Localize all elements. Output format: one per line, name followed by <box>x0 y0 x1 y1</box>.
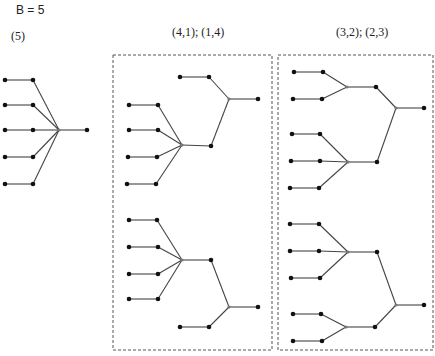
tree-edge <box>157 220 182 260</box>
tree-junction <box>346 250 349 253</box>
tree-edge <box>33 105 59 130</box>
tree-edge <box>158 260 182 299</box>
tree-edge <box>209 77 229 99</box>
tree-node <box>290 132 295 137</box>
tree-node <box>288 186 293 191</box>
tree-3-2 <box>288 70 427 191</box>
tree-4-1 <box>125 75 261 187</box>
tree-edge <box>322 327 346 341</box>
tree-node <box>291 312 296 317</box>
tree-node <box>31 128 36 133</box>
tree-node <box>127 297 132 302</box>
tree-node <box>31 78 36 83</box>
tree-node <box>3 78 8 83</box>
tree-node <box>3 128 8 133</box>
tree-node <box>178 325 183 330</box>
tree-edge <box>319 162 348 188</box>
tree-node <box>156 103 161 108</box>
tree-node <box>156 128 161 133</box>
tree-junction <box>57 128 60 131</box>
tree-edge <box>319 224 348 252</box>
tree-node <box>3 103 8 108</box>
tree-edge <box>33 130 59 184</box>
tree-node <box>156 245 161 250</box>
tree-junction <box>346 160 349 163</box>
tree-node <box>127 218 132 223</box>
tree-edge <box>320 252 348 278</box>
tree-node <box>321 70 326 75</box>
tree-edge <box>321 314 346 327</box>
tree-edge <box>319 251 348 252</box>
tree-node <box>320 339 325 344</box>
tree-node <box>319 312 324 317</box>
tree-edge <box>320 161 348 162</box>
tree-edge <box>375 305 396 327</box>
tree-node <box>256 305 261 310</box>
tree-edge <box>377 108 396 162</box>
tree-edge <box>211 260 229 307</box>
tree-junction <box>344 325 347 328</box>
tree-junction <box>345 85 348 88</box>
tree-node <box>207 325 212 330</box>
tree-node <box>256 97 261 102</box>
tree-node <box>127 272 132 277</box>
tree-node <box>3 155 8 160</box>
tree-junction <box>394 303 397 306</box>
tree-node <box>156 272 161 277</box>
tree-node <box>126 155 131 160</box>
tree-node <box>3 182 8 187</box>
tree-node <box>291 97 296 102</box>
tree-node <box>127 128 132 133</box>
tree-node <box>374 85 379 90</box>
tree-edge <box>323 72 347 87</box>
tree-5 <box>3 78 90 187</box>
tree-node <box>422 106 427 111</box>
tree-junction <box>180 258 183 261</box>
tree-node <box>318 276 323 281</box>
tree-edge <box>182 145 211 146</box>
tree-junction <box>394 106 397 109</box>
tree-edge <box>209 307 229 327</box>
tree-junction <box>227 97 230 100</box>
tree-node <box>155 155 160 160</box>
tree-1-4 <box>127 218 261 330</box>
tree-node <box>320 97 325 102</box>
tree-node <box>288 222 293 227</box>
tree-edge <box>158 105 182 145</box>
tree-node <box>209 258 214 263</box>
tree-node <box>156 297 161 302</box>
tree-node <box>422 303 427 308</box>
tree-edge <box>376 87 396 108</box>
tree-node <box>31 182 36 187</box>
tree-edge <box>377 252 396 305</box>
tree-node <box>373 325 378 330</box>
tree-node <box>375 160 380 165</box>
tree-node <box>125 182 130 187</box>
tree-node <box>375 250 380 255</box>
tree-junction <box>227 305 230 308</box>
tree-junction <box>180 143 183 146</box>
tree-node <box>85 128 90 133</box>
tree-node <box>127 103 132 108</box>
tree-2-3 <box>288 222 427 344</box>
tree-edge <box>33 130 59 157</box>
tree-edge <box>322 87 347 99</box>
tree-node <box>318 159 323 164</box>
tree-node <box>207 75 212 80</box>
tree-node <box>289 159 294 164</box>
tree-node <box>31 155 36 160</box>
tree-edge <box>320 134 348 162</box>
tree-node <box>317 186 322 191</box>
tree-node <box>292 70 297 75</box>
tree-edge <box>211 99 229 146</box>
tree-node <box>317 249 322 254</box>
tree-node <box>127 245 132 250</box>
tree-diagram <box>0 0 435 356</box>
tree-edge <box>33 80 59 130</box>
tree-node <box>317 222 322 227</box>
tree-node <box>31 103 36 108</box>
tree-node <box>288 249 293 254</box>
tree-edge <box>158 130 182 145</box>
tree-node <box>154 182 159 187</box>
tree-node <box>178 75 183 80</box>
